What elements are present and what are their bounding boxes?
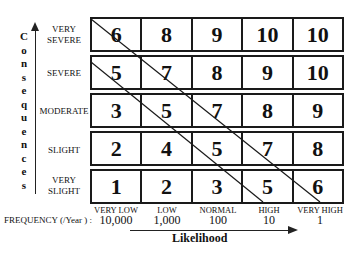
matrix-cell: 9: [193, 19, 243, 50]
axis-title-letter: s: [22, 71, 26, 85]
matrix-cell: 5: [193, 133, 243, 164]
row-label-severe: SEVERE: [38, 68, 90, 79]
axis-title-letter: u: [21, 111, 27, 125]
matrix-cell: 8: [193, 57, 243, 88]
row-label-very-slight: VERY SLIGHT: [38, 175, 90, 197]
matrix-row-severe: 5 7 8 9 10: [90, 55, 344, 90]
axis-title-letter: c: [22, 152, 27, 166]
axis-title-letter: n: [21, 138, 27, 152]
matrix-cell: 10: [294, 19, 342, 50]
matrix-row-slight: 2 4 5 7 8: [90, 131, 344, 166]
matrix-cell: 7: [142, 57, 192, 88]
row-label-slight: SLIGHT: [38, 145, 90, 156]
matrix-cell: 7: [193, 95, 243, 126]
matrix-cell: 8: [294, 133, 342, 164]
matrix-cell: 6: [92, 19, 142, 50]
row-label-line: SLIGHT: [38, 186, 90, 197]
axis-title-letter: C: [20, 30, 28, 44]
row-label-line: VERY: [38, 24, 90, 35]
axis-title-letter: e: [22, 125, 27, 139]
matrix-cell: 9: [243, 57, 293, 88]
axis-title-letter: s: [22, 179, 26, 193]
row-label-moderate: MODERATE: [36, 106, 92, 117]
matrix-cell: 1: [92, 171, 142, 202]
matrix-cell: 8: [243, 95, 293, 126]
matrix-cell: 9: [294, 95, 342, 126]
row-label-very-severe: VERY SEVERE: [38, 24, 90, 46]
axis-title-letter: q: [21, 98, 27, 112]
row-label-line: SEVERE: [38, 35, 90, 46]
axis-title-letter: o: [21, 44, 27, 58]
axis-title-letter: e: [22, 165, 27, 179]
row-label-line: SLIGHT: [38, 145, 90, 156]
matrix-row-moderate: 3 5 7 8 9: [90, 93, 344, 128]
frequency-label: FREQUENCY (/Year ) :: [4, 215, 92, 226]
matrix-cell: 10: [243, 19, 293, 50]
matrix-cell: 5: [142, 95, 192, 126]
consequences-axis-title: C o n s e q u e n c e s: [19, 30, 29, 192]
matrix-cell: 2: [142, 171, 192, 202]
axis-title-letter: n: [21, 57, 27, 71]
matrix-cell: 3: [92, 95, 142, 126]
row-label-line: SEVERE: [38, 68, 90, 79]
matrix-cell: 5: [92, 57, 142, 88]
matrix-cell: 10: [294, 57, 342, 88]
matrix-cell: 6: [294, 171, 342, 202]
matrix-cell: 3: [193, 171, 243, 202]
axis-title-letter: e: [22, 84, 27, 98]
matrix-row-very-slight: 1 2 3 5 6: [90, 169, 344, 204]
arrow-right-icon: [288, 226, 298, 234]
matrix-cell: 5: [243, 171, 293, 202]
matrix-cell: 7: [243, 133, 293, 164]
row-label-line: VERY: [38, 175, 90, 186]
matrix-cell: 2: [92, 133, 142, 164]
frequency-very-high: 1: [290, 214, 350, 227]
likelihood-axis-title: Likelihood: [172, 231, 227, 246]
matrix-cell: 4: [142, 133, 192, 164]
matrix-row-very-severe: 6 8 9 10 10: [90, 17, 344, 52]
matrix-cell: 8: [142, 19, 192, 50]
row-label-line: MODERATE: [36, 106, 92, 117]
